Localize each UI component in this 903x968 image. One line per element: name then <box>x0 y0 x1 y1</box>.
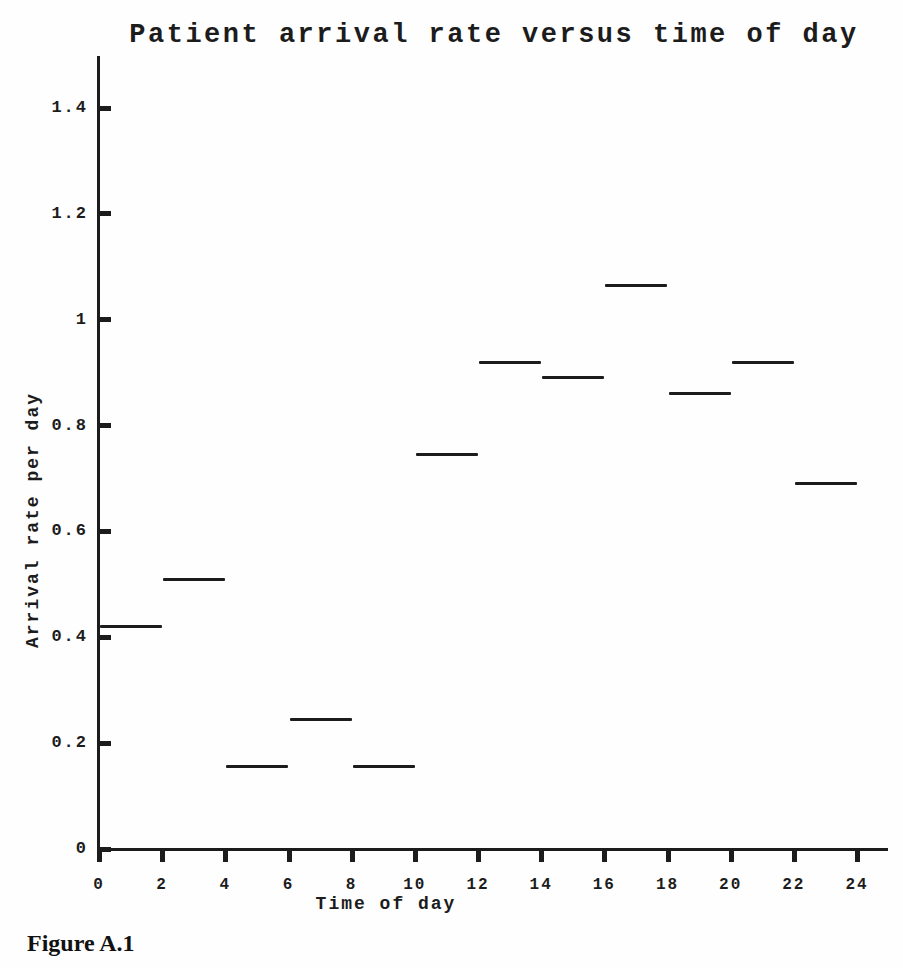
y-tick-label: 0 <box>26 839 88 859</box>
y-axis-line <box>97 56 100 851</box>
data-segment <box>479 361 541 364</box>
x-tick-mark <box>160 851 165 862</box>
x-tick-mark <box>666 851 671 862</box>
y-tick-mark <box>100 317 111 322</box>
x-tick-mark <box>855 851 860 862</box>
x-tick-mark <box>223 851 228 862</box>
x-tick-label: 12 <box>448 876 508 894</box>
y-tick-mark <box>100 211 111 216</box>
x-tick-mark <box>287 851 292 862</box>
y-tick-mark <box>100 423 111 428</box>
y-tick-mark <box>100 635 111 640</box>
scanned-figure-page: Patient arrival rate versus time of day … <box>0 0 903 968</box>
figure-caption: Figure A.1 <box>27 930 135 957</box>
x-tick-label: 0 <box>69 876 129 894</box>
plot-area: 00.20.40.60.811.21.4 0246810121416182022… <box>0 0 903 968</box>
x-tick-mark <box>602 851 607 862</box>
y-axis-label: Arrival rate per day <box>23 392 43 648</box>
x-tick-mark <box>539 851 544 862</box>
y-tick-label: 1 <box>26 310 88 330</box>
x-tick-mark <box>476 851 481 862</box>
y-tick-label: 1.2 <box>26 204 88 224</box>
y-tick-label: 1.4 <box>26 98 88 118</box>
x-tick-label: 14 <box>511 876 571 894</box>
data-segment <box>353 765 415 768</box>
data-segment <box>100 625 162 628</box>
data-segment <box>290 718 352 721</box>
data-segment <box>795 482 857 485</box>
x-tick-label: 2 <box>132 876 192 894</box>
data-segment <box>416 453 478 456</box>
x-tick-mark <box>729 851 734 862</box>
x-tick-mark <box>350 851 355 862</box>
x-tick-label: 4 <box>195 876 255 894</box>
y-tick-mark <box>100 106 111 111</box>
x-tick-label: 18 <box>638 876 698 894</box>
y-tick-mark <box>100 529 111 534</box>
x-tick-label: 20 <box>701 876 761 894</box>
x-tick-mark <box>792 851 797 862</box>
x-tick-label: 22 <box>764 876 824 894</box>
y-tick-mark <box>100 741 111 746</box>
x-tick-mark <box>413 851 418 862</box>
x-tick-label: 16 <box>574 876 634 894</box>
x-tick-label: 10 <box>385 876 445 894</box>
x-tick-mark <box>97 851 102 862</box>
data-segment <box>732 361 794 364</box>
x-tick-label: 24 <box>827 876 887 894</box>
data-segment <box>542 376 604 379</box>
data-segment <box>226 765 288 768</box>
x-axis-line <box>97 848 888 851</box>
data-segment <box>163 578 225 581</box>
x-axis-label: Time of day <box>316 894 457 914</box>
y-tick-label: 0.2 <box>26 733 88 753</box>
data-segment <box>669 392 731 395</box>
x-tick-label: 6 <box>259 876 319 894</box>
x-tick-label: 8 <box>322 876 382 894</box>
data-segment <box>605 284 667 287</box>
